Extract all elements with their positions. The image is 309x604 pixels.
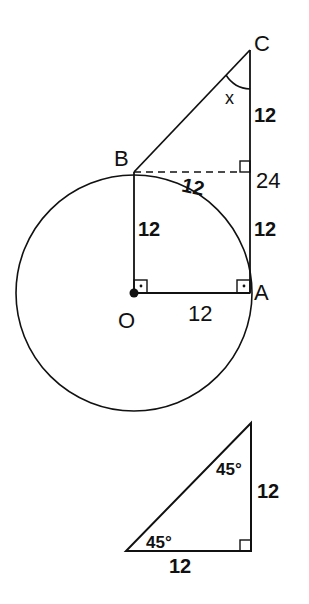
segment-CB xyxy=(134,50,250,172)
label-vertical-leg: 12 xyxy=(257,480,279,502)
reference-triangle xyxy=(126,423,251,551)
label-top-angle: 45° xyxy=(216,460,242,479)
label-point-A: A xyxy=(254,280,269,305)
right-angle-dot-O xyxy=(140,285,143,288)
label-CD-length: 12 xyxy=(254,104,276,126)
label-CA-total: 24 xyxy=(256,168,280,193)
geometry-diagram: C x 12 B 12 24 12 12 A O 12 45° 45° 12 1… xyxy=(0,0,309,604)
right-angle-marker-triangle xyxy=(240,540,251,551)
label-OB-length: 12 xyxy=(138,218,160,240)
label-horizontal-leg: 12 xyxy=(169,555,191,577)
angle-arc-x xyxy=(226,75,250,89)
label-angle-x: x xyxy=(225,88,234,108)
center-point-O xyxy=(130,289,139,298)
label-point-O: O xyxy=(118,308,135,333)
right-angle-marker-D xyxy=(240,161,250,172)
label-DA-length: 12 xyxy=(254,218,276,240)
label-bottom-angle: 45° xyxy=(146,533,172,552)
label-OA-length: 12 xyxy=(188,301,212,326)
label-point-C: C xyxy=(254,31,270,56)
label-arc-length: 12 xyxy=(180,174,206,200)
label-point-B: B xyxy=(114,146,129,171)
right-angle-dot-A xyxy=(243,285,246,288)
